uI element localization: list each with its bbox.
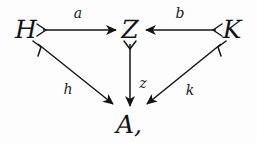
morphism-z (124, 41, 136, 106)
morphism-b-tail-barb (213, 24, 222, 36)
object-label-Z: Z (121, 17, 138, 42)
morphism-h-shaft (38, 44, 113, 104)
morphism-label-z: z (139, 76, 146, 90)
commutative-diagram: H Z K A, a b h z k (0, 0, 257, 143)
morphism-label-b: b (176, 6, 185, 20)
object-label-K: K (223, 17, 242, 42)
morphism-h (33, 41, 113, 104)
morphism-b (146, 24, 222, 36)
object-label-A: A, (116, 112, 142, 137)
morphism-k-shaft (147, 44, 221, 104)
morphism-label-k: k (186, 83, 194, 97)
morphism-label-h: h (63, 82, 72, 96)
morphism-a-tail-barb (37, 24, 46, 36)
morphism-label-a: a (74, 6, 82, 20)
morphism-a (37, 24, 116, 36)
object-label-H: H (15, 17, 37, 42)
